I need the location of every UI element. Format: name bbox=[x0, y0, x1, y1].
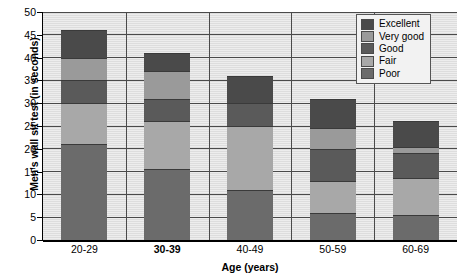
y-tick-label-0: 0 bbox=[30, 234, 36, 246]
legend-item-very-good[interactable]: Very good bbox=[361, 30, 424, 42]
y-tick-mark-10 bbox=[37, 194, 42, 195]
legend-swatch-icon-1 bbox=[361, 31, 374, 42]
x-axis-line bbox=[43, 240, 457, 242]
y-tick-label-15: 15 bbox=[24, 166, 36, 178]
bar-segment-20-29-excellent bbox=[61, 30, 107, 57]
y-tick-mark-40 bbox=[37, 58, 42, 59]
legend-swatch-icon-4 bbox=[361, 68, 374, 79]
bar-segment-60-69-good bbox=[393, 153, 439, 178]
x-tick-label-40-49: 40-49 bbox=[237, 243, 264, 255]
gridline-x-3 bbox=[291, 12, 292, 240]
bar-segment-50-59-good bbox=[310, 149, 356, 181]
legend-swatch-icon-0 bbox=[361, 19, 374, 30]
chart-legend: ExcellentVery goodGoodFairPoor bbox=[356, 14, 431, 84]
bar-30-39 bbox=[144, 12, 190, 240]
y-tick-label-45: 45 bbox=[24, 29, 36, 41]
bar-segment-60-69-excellent bbox=[393, 121, 439, 146]
y-axis-line bbox=[42, 12, 43, 241]
x-axis-title: Age (years) bbox=[43, 261, 457, 273]
legend-swatch-icon-3 bbox=[361, 56, 374, 67]
bar-20-29 bbox=[61, 12, 107, 240]
y-tick-label-30: 30 bbox=[24, 97, 36, 109]
bar-segment-50-59-excellent bbox=[310, 99, 356, 129]
bar-segment-50-59-fair bbox=[310, 181, 356, 213]
y-tick-mark-25 bbox=[37, 126, 42, 127]
legend-label-2: Good bbox=[379, 44, 403, 54]
x-tick-label-20-29: 20-29 bbox=[71, 243, 98, 255]
y-tick-mark-35 bbox=[37, 80, 42, 81]
legend-item-poor[interactable]: Poor bbox=[361, 68, 424, 80]
bar-segment-40-49-good bbox=[227, 103, 273, 126]
bar-segment-40-49-excellent bbox=[227, 76, 273, 103]
bar-50-59 bbox=[310, 12, 356, 240]
x-tick-label-60-69: 60-69 bbox=[402, 243, 429, 255]
bar-segment-30-39-excellent bbox=[144, 53, 190, 71]
bar-segment-50-59-very-good bbox=[310, 128, 356, 149]
bar-segment-50-59-poor bbox=[310, 213, 356, 240]
bar-segment-30-39-poor bbox=[144, 169, 190, 240]
bar-segment-30-39-very-good bbox=[144, 71, 190, 98]
y-tick-label-5: 5 bbox=[30, 211, 36, 223]
bar-segment-30-39-fair bbox=[144, 121, 190, 169]
gridline-x-1 bbox=[126, 12, 127, 240]
x-tick-label-50-59: 50-59 bbox=[319, 243, 346, 255]
legend-item-excellent[interactable]: Excellent bbox=[361, 18, 424, 30]
legend-label-1: Very good bbox=[379, 32, 424, 42]
legend-label-0: Excellent bbox=[379, 19, 420, 29]
bar-segment-40-49-fair bbox=[227, 126, 273, 190]
y-tick-label-35: 35 bbox=[24, 74, 36, 86]
stacked-bar-chart: Men's wall sit test (in seconds) 0510152… bbox=[0, 0, 471, 279]
bar-segment-20-29-poor bbox=[61, 144, 107, 240]
bar-segment-20-29-good bbox=[61, 80, 107, 103]
y-axis-tick-labels: 05101520253035404550 bbox=[0, 12, 41, 240]
bar-segment-30-39-good bbox=[144, 99, 190, 122]
x-axis-tick-labels: 20-2930-3940-4950-5960-69 bbox=[43, 243, 457, 259]
y-tick-label-10: 10 bbox=[24, 188, 36, 200]
y-tick-label-50: 50 bbox=[24, 6, 36, 18]
legend-swatch-icon-2 bbox=[361, 43, 374, 54]
legend-item-good[interactable]: Good bbox=[361, 43, 424, 55]
bar-40-49 bbox=[227, 12, 273, 240]
y-tick-mark-20 bbox=[37, 149, 42, 150]
x-tick-label-30-39: 30-39 bbox=[154, 243, 181, 255]
y-tick-label-40: 40 bbox=[24, 52, 36, 64]
y-tick-mark-15 bbox=[37, 172, 42, 173]
y-tick-mark-50 bbox=[37, 12, 42, 13]
bar-segment-40-49-poor bbox=[227, 190, 273, 240]
y-tick-mark-5 bbox=[37, 217, 42, 218]
legend-label-3: Fair bbox=[379, 56, 396, 66]
gridline-x-2 bbox=[209, 12, 210, 240]
bar-segment-20-29-very-good bbox=[61, 58, 107, 81]
y-tick-label-25: 25 bbox=[24, 120, 36, 132]
legend-label-4: Poor bbox=[379, 69, 400, 79]
bar-segment-60-69-poor bbox=[393, 215, 439, 240]
y-tick-mark-30 bbox=[37, 103, 42, 104]
bar-segment-20-29-fair bbox=[61, 103, 107, 144]
bar-segment-60-69-very-good bbox=[393, 147, 439, 154]
bar-segment-60-69-fair bbox=[393, 178, 439, 214]
legend-item-fair[interactable]: Fair bbox=[361, 55, 424, 67]
y-tick-label-20: 20 bbox=[24, 143, 36, 155]
y-tick-mark-0 bbox=[37, 240, 42, 241]
y-tick-mark-45 bbox=[37, 35, 42, 36]
